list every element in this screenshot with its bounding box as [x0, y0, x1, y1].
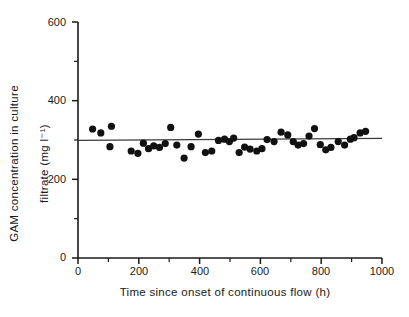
- data-point: [180, 154, 187, 161]
- data-point: [263, 136, 270, 143]
- plot-area: [0, 0, 409, 317]
- data-point: [167, 124, 174, 131]
- data-point: [173, 142, 180, 149]
- data-point: [246, 145, 253, 152]
- data-point: [162, 140, 169, 147]
- data-point: [350, 134, 357, 141]
- data-point: [140, 140, 147, 147]
- data-point: [106, 143, 113, 150]
- data-point: [284, 131, 291, 138]
- data-point: [187, 143, 194, 150]
- data-point: [89, 125, 96, 132]
- data-points: [89, 123, 369, 162]
- data-point: [258, 145, 265, 152]
- data-point: [215, 137, 222, 144]
- data-point: [270, 138, 277, 145]
- data-point: [317, 141, 324, 148]
- data-point: [305, 132, 312, 139]
- data-point: [311, 125, 318, 132]
- data-point: [208, 147, 215, 154]
- data-point: [97, 129, 104, 136]
- data-point: [300, 140, 307, 147]
- data-point: [195, 131, 202, 138]
- data-point: [277, 129, 284, 136]
- data-point: [128, 147, 135, 154]
- data-point: [335, 138, 342, 145]
- data-point: [230, 134, 237, 141]
- data-point: [362, 128, 369, 135]
- data-point: [327, 144, 334, 151]
- data-point: [108, 123, 115, 130]
- data-point: [236, 149, 243, 156]
- chart-figure: GAM concentration in culture filtrate (m…: [0, 0, 409, 317]
- data-point: [341, 142, 348, 149]
- data-point: [202, 149, 209, 156]
- data-point: [134, 150, 141, 157]
